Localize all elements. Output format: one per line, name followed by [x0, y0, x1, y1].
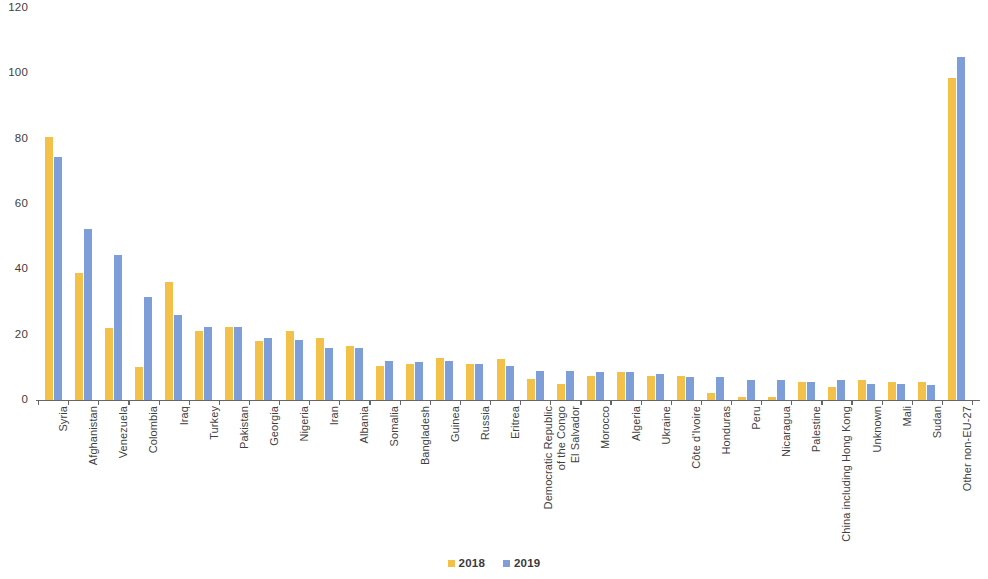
bar-2018	[707, 393, 715, 400]
bar-2019	[385, 361, 393, 400]
bar-2018	[677, 376, 685, 401]
bar-2019	[325, 348, 333, 400]
x-tick	[701, 400, 702, 405]
x-category-label: El Salvador	[569, 406, 582, 546]
bar-group	[255, 8, 272, 400]
bar-group	[497, 8, 514, 400]
x-tick	[490, 400, 491, 405]
legend-swatch-icon	[448, 560, 455, 567]
bar-2018	[617, 372, 625, 400]
x-category-label: Ukraine	[660, 406, 673, 546]
y-tick-label-100: 100	[8, 68, 28, 80]
bar-2018	[798, 382, 806, 400]
x-category-label: Iran	[328, 406, 341, 546]
x-category-label: Guinea	[449, 406, 462, 546]
x-tick	[159, 400, 160, 405]
x-category-label: Syria	[57, 406, 70, 546]
bar-2019	[144, 297, 152, 400]
x-tick	[460, 400, 461, 405]
x-tick	[219, 400, 220, 405]
bar-group	[286, 8, 303, 400]
bar-2018	[948, 78, 956, 400]
y-axis-tick-labels: 020406080100120	[0, 0, 34, 410]
x-tick	[882, 400, 883, 405]
bar-2019	[867, 384, 875, 400]
bar-2018	[888, 382, 896, 400]
legend-label: 2019	[514, 557, 540, 569]
x-category-label: Nicaragua	[780, 406, 793, 546]
y-tick-label-40: 40	[15, 264, 28, 276]
bar-2018	[286, 331, 294, 400]
y-tick-label-0: 0	[21, 394, 28, 406]
bar-group	[105, 8, 122, 400]
bar-2018	[75, 273, 83, 400]
y-tick-label-60: 60	[15, 198, 28, 210]
bar-2019	[415, 362, 423, 400]
x-tick	[731, 400, 732, 405]
bar-2018	[557, 384, 565, 400]
x-tick	[189, 400, 190, 405]
legend-item-2018[interactable]: 2018	[448, 557, 485, 569]
bar-group	[888, 8, 905, 400]
legend-item-2019[interactable]: 2019	[503, 557, 540, 569]
bar-2019	[807, 382, 815, 400]
x-tick	[430, 400, 431, 405]
x-tick	[761, 400, 762, 405]
chart-legend: 20182019	[0, 556, 988, 569]
bar-group	[768, 8, 785, 400]
bar-group	[135, 8, 152, 400]
bar-series-container	[36, 8, 980, 400]
x-category-label: Nigeria	[298, 406, 311, 546]
bar-2019	[927, 385, 935, 400]
bar-2018	[165, 282, 173, 400]
bar-2019	[295, 340, 303, 400]
bar-2018	[105, 328, 113, 400]
bar-2019	[777, 380, 785, 400]
bar-2019	[566, 371, 574, 400]
bar-group	[587, 8, 604, 400]
y-tick-label-80: 80	[15, 133, 28, 145]
bar-group	[316, 8, 333, 400]
x-category-label: Côte d'Ivoire	[690, 406, 703, 546]
legend-swatch-icon	[503, 560, 510, 567]
x-category-label: Mali	[901, 406, 914, 546]
bar-2018	[255, 341, 263, 400]
x-tick	[550, 400, 551, 405]
bar-2018	[768, 397, 776, 400]
bar-2018	[497, 359, 505, 400]
x-category-label: Other non-EU-27	[961, 406, 974, 546]
bar-2018	[466, 364, 474, 400]
bar-group	[858, 8, 875, 400]
bar-group	[918, 8, 935, 400]
y-tick-label-20: 20	[15, 329, 28, 341]
bar-group	[828, 8, 845, 400]
x-tick	[641, 400, 642, 405]
bar-2019	[626, 372, 634, 400]
bar-group	[557, 8, 574, 400]
x-tick	[520, 400, 521, 405]
bar-group	[527, 8, 544, 400]
bar-2018	[858, 380, 866, 400]
bar-2018	[527, 379, 535, 400]
bar-2018	[738, 397, 746, 400]
x-category-label: Turkey	[208, 406, 221, 546]
x-category-label: Eritrea	[509, 406, 522, 546]
bar-2018	[135, 367, 143, 400]
bar-2018	[587, 376, 595, 401]
bar-group	[647, 8, 664, 400]
bar-2019	[475, 364, 483, 400]
bar-2019	[686, 377, 694, 400]
bar-2019	[204, 327, 212, 401]
bar-2018	[45, 137, 53, 400]
bar-group	[406, 8, 423, 400]
bar-2019	[445, 361, 453, 400]
x-tick	[610, 400, 611, 405]
bar-2019	[716, 377, 724, 400]
x-tick	[912, 400, 913, 405]
x-tick	[128, 400, 129, 405]
bar-2019	[747, 380, 755, 400]
x-category-label: Democratic Republic of the Congo	[542, 406, 567, 546]
x-tick	[249, 400, 250, 405]
x-tick	[38, 400, 39, 405]
bar-2019	[957, 57, 965, 400]
